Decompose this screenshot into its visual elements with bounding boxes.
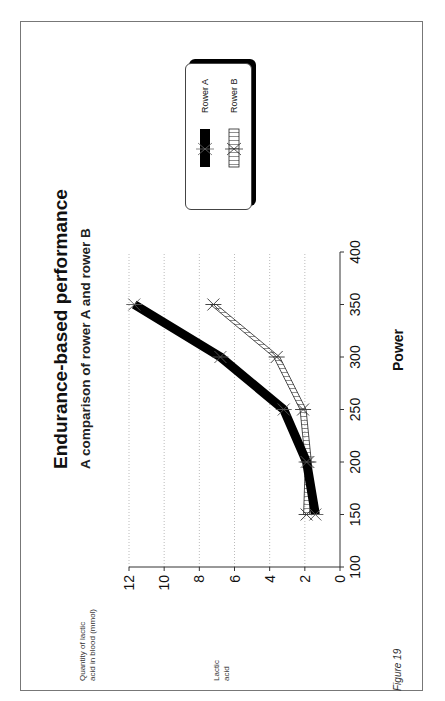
y-tick-label: 10 — [156, 575, 172, 591]
y-tick-label: 12 — [121, 575, 137, 591]
legend-label-rower-b: Rower B — [229, 78, 239, 113]
series-rower-a — [126, 299, 323, 521]
series — [126, 299, 323, 521]
x-tick-label: 300 — [347, 345, 363, 369]
y-tick-label: 6 — [227, 575, 243, 583]
x-tick-label: 400 — [347, 240, 363, 264]
x-tick-label: 250 — [347, 398, 363, 422]
y-tick-label: 4 — [262, 575, 278, 583]
series-rower-b — [205, 299, 316, 521]
x-tick-label: 100 — [347, 555, 363, 579]
y-tick-label: 8 — [191, 575, 207, 583]
axes: 024681012100150200250300350400 — [121, 240, 363, 590]
x-tick-label: 150 — [347, 503, 363, 527]
y-tick-label: 0 — [332, 575, 348, 583]
x-tick-label: 350 — [347, 293, 363, 317]
legend-label-rower-a: Rower A — [200, 79, 210, 113]
y-tick-label: 2 — [297, 575, 313, 583]
x-tick-label: 200 — [347, 450, 363, 474]
rotated-chart-page: Endurance-based performance A comparison… — [0, 0, 445, 701]
legend: Rower A Rower B — [185, 63, 252, 210]
legend-swatch-rower-b — [225, 129, 243, 167]
legend-swatch-rower-a — [196, 129, 214, 167]
